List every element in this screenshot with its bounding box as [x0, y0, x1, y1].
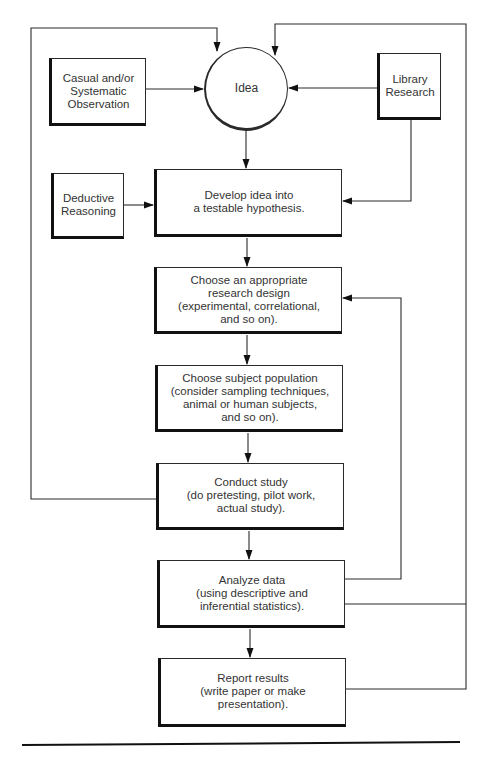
edge-analyze-to-design	[343, 298, 401, 579]
node-idea-label: Idea	[235, 81, 258, 95]
node-population-label: Choose subject population (consider samp…	[171, 372, 330, 424]
node-design: Choose an appropriate research design (e…	[154, 267, 342, 334]
node-observation-label: Casual and/or Systematic Observation	[63, 72, 135, 111]
node-conduct: Conduct study (do pretesting, pilot work…	[156, 463, 344, 530]
node-design-label: Choose an appropriate research design (e…	[178, 274, 320, 326]
node-deductive: Deductive Reasoning	[51, 173, 124, 239]
node-report: Report results (write paper or make pres…	[158, 658, 346, 727]
node-library: Library Research	[377, 53, 441, 120]
node-hypothesis: Develop idea into a testable hypothesis.	[154, 169, 342, 237]
node-deductive-label: Deductive Reasoning	[61, 192, 116, 218]
edge-library-to-hypothesis	[343, 120, 411, 201]
node-observation: Casual and/or Systematic Observation	[49, 58, 146, 126]
node-analyze-label: Analyze data (using descriptive and infe…	[196, 574, 308, 613]
node-conduct-label: Conduct study (do pretesting, pilot work…	[187, 476, 315, 515]
node-library-label: Library Research	[385, 73, 434, 99]
flowchart: Casual and/or Systematic Observation Ide…	[0, 0, 490, 763]
node-idea: Idea	[204, 47, 288, 131]
node-population: Choose subject population (consider samp…	[155, 365, 343, 432]
bottom-rule	[22, 742, 460, 745]
node-hypothesis-label: Develop idea into a testable hypothesis.	[193, 189, 304, 215]
node-report-label: Report results (write paper or make pres…	[200, 672, 305, 711]
node-analyze: Analyze data (using descriptive and infe…	[157, 560, 345, 628]
